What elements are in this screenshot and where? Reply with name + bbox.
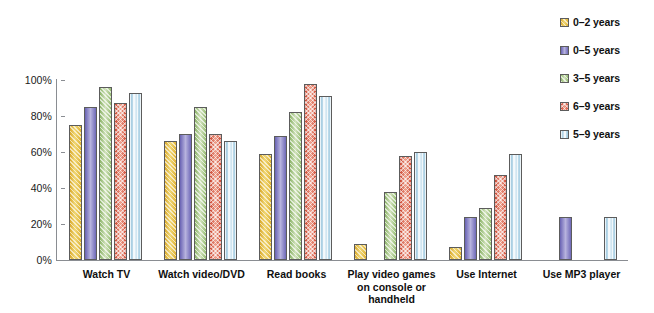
bar[interactable] [224, 141, 237, 260]
bar[interactable] [69, 125, 82, 260]
bar[interactable] [179, 134, 192, 260]
x-axis-category-label: Watch TV [55, 268, 158, 281]
legend-item-label: 0–2 years [573, 16, 620, 28]
y-axis-tick-label: 0% [37, 254, 52, 266]
bar-group-bars [164, 80, 239, 260]
legend-item[interactable]: 3–5 years [560, 64, 652, 92]
bar[interactable] [354, 244, 367, 260]
bar-chart: 100%80%60%40%20%0% Watch TVWatch video/D… [0, 0, 654, 313]
y-axis-tick-label: 100% [25, 74, 52, 86]
x-axis-category-label: Play video games on console or handheld [340, 268, 443, 306]
bar[interactable] [209, 134, 222, 260]
bar[interactable] [384, 192, 397, 260]
legend-swatch-icon [560, 46, 569, 55]
bar[interactable] [194, 107, 207, 260]
x-axis-line [56, 260, 628, 261]
legend-item-label: 5–9 years [573, 128, 620, 140]
legend-item-label: 6–9 years [573, 100, 620, 112]
bar[interactable] [114, 103, 127, 260]
bar-group-bars [259, 80, 334, 260]
legend-item-label: 3–5 years [573, 72, 620, 84]
bar-group-bars [354, 80, 429, 260]
bar-group-bars [449, 80, 524, 260]
bar[interactable] [414, 152, 427, 260]
bar[interactable] [494, 175, 507, 260]
bar[interactable] [559, 217, 572, 260]
y-axis-tick-label: 20% [31, 218, 52, 230]
bar[interactable] [604, 217, 617, 260]
bar[interactable] [479, 208, 492, 260]
bar[interactable] [464, 217, 477, 260]
y-axis-tick-mark [61, 260, 65, 261]
x-axis-category-label: Use MP3 player [530, 268, 633, 281]
plot-area [57, 80, 597, 260]
x-axis-category-label: Watch video/DVD [150, 268, 253, 281]
bar[interactable] [99, 87, 112, 260]
bar[interactable] [274, 136, 287, 260]
bar[interactable] [449, 247, 462, 260]
bar[interactable] [289, 112, 302, 260]
legend-item-label: 0–5 years [573, 44, 620, 56]
y-axis-tick-label: 80% [31, 110, 52, 122]
bar[interactable] [164, 141, 177, 260]
legend-swatch-icon [560, 102, 569, 111]
bar[interactable] [399, 156, 412, 260]
x-axis-category-label: Use Internet [435, 268, 538, 281]
legend-swatch-icon [560, 130, 569, 139]
y-axis-tick-labels: 100%80%60%40%20%0% [8, 80, 52, 260]
legend-item[interactable]: 0–5 years [560, 36, 652, 64]
bar[interactable] [509, 154, 522, 260]
bar-group-bars [69, 80, 144, 260]
legend-item[interactable]: 5–9 years [560, 120, 652, 148]
legend-item[interactable]: 0–2 years [560, 8, 652, 36]
bar[interactable] [84, 107, 97, 260]
x-axis-category-label: Read books [245, 268, 348, 281]
bar[interactable] [304, 84, 317, 260]
legend-item[interactable]: 6–9 years [560, 92, 652, 120]
chart-legend: 0–2 years0–5 years3–5 years6–9 years5–9 … [560, 8, 652, 148]
legend-swatch-icon [560, 74, 569, 83]
y-axis-tick-label: 40% [31, 182, 52, 194]
bar[interactable] [129, 93, 142, 260]
bar[interactable] [259, 154, 272, 260]
bar[interactable] [319, 96, 332, 260]
legend-swatch-icon [560, 18, 569, 27]
y-axis-tick-label: 60% [31, 146, 52, 158]
